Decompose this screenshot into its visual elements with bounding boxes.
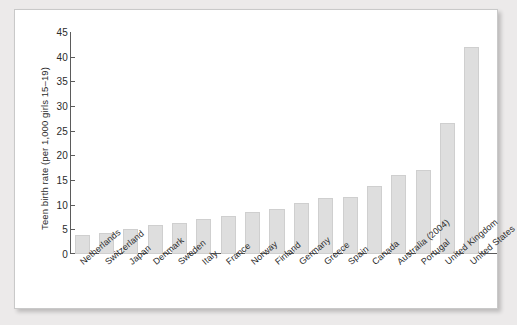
y-tick-label: 40: [15, 51, 68, 62]
y-tick-label: 5: [15, 224, 68, 235]
bar: [367, 186, 382, 254]
bar: [440, 123, 455, 254]
y-tick-mark: [71, 180, 75, 181]
y-tick-label: 45: [15, 27, 68, 38]
y-tick-label: 20: [15, 150, 68, 161]
figure-panel: Teen birth rate (per 1,000 girls 15–19) …: [14, 9, 498, 309]
y-axis-line: [70, 32, 71, 254]
y-tick-mark: [71, 205, 75, 206]
y-tick-label: 25: [15, 125, 68, 136]
y-tick-mark: [71, 155, 75, 156]
y-tick-label: 15: [15, 175, 68, 186]
y-tick-mark: [71, 81, 75, 82]
y-tick-label: 0: [15, 249, 68, 260]
y-tick-mark: [71, 57, 75, 58]
y-tick-mark: [71, 106, 75, 107]
y-tick-label: 30: [15, 101, 68, 112]
y-tick-label: 35: [15, 76, 68, 87]
bar: [221, 216, 236, 254]
y-tick-mark: [71, 229, 75, 230]
y-tick-label: 10: [15, 199, 68, 210]
bar-chart: Teen birth rate (per 1,000 girls 15–19) …: [15, 10, 497, 308]
y-tick-mark: [71, 131, 75, 132]
bar: [464, 47, 479, 254]
